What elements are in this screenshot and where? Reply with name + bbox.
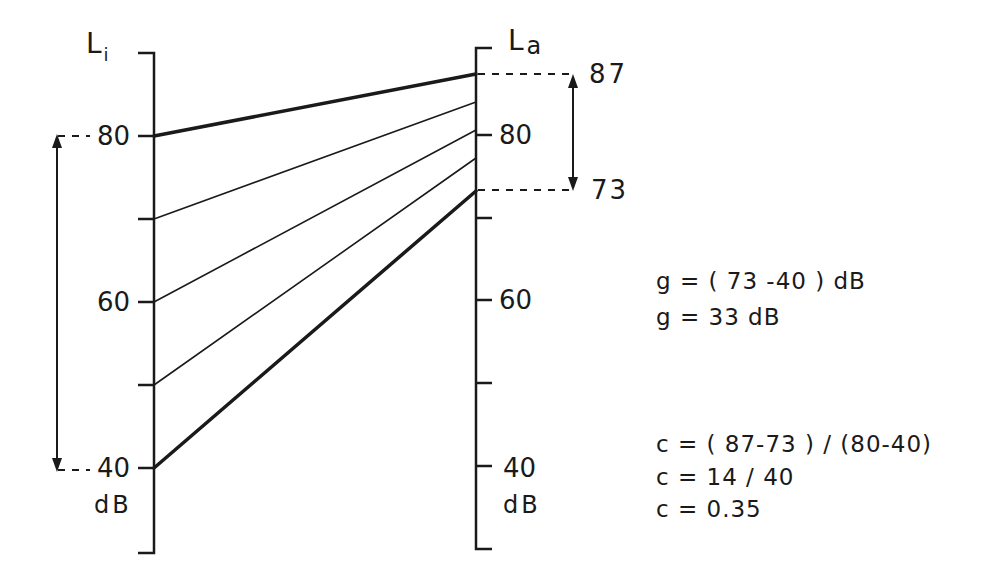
right-axis-title-main: L xyxy=(508,24,524,57)
input-range-arrow xyxy=(52,134,62,472)
right-tick-label-60: 60 xyxy=(499,287,532,313)
left-axis-title-main: L xyxy=(86,27,102,60)
left-tick-label-80: 80 xyxy=(97,123,130,149)
mapping-line-80-to-87 xyxy=(154,74,476,136)
right-tick-label-40: 40 xyxy=(503,455,536,481)
output-max-label: 87 xyxy=(589,61,628,87)
left-axis-title-subscript: i xyxy=(104,44,109,65)
arrowhead-up-icon xyxy=(568,74,578,88)
equation-g-2: g = 33 dB xyxy=(656,306,780,329)
left-axis-title: Li xyxy=(86,30,107,58)
equation-c-2: c = 14 / 40 xyxy=(656,466,794,489)
equation-c-1: c = ( 87-73 ) / (80-40) xyxy=(656,433,932,456)
mapping-line-40-to-73 xyxy=(154,191,476,468)
left-tick-label-40: 40 xyxy=(97,455,130,481)
equation-c-3: c = 0.35 xyxy=(656,498,762,521)
left-axis-unit: dB xyxy=(94,493,132,517)
right-axis xyxy=(476,48,492,549)
equation-g-1: g = ( 73 -40 ) dB xyxy=(656,270,866,293)
right-tick-label-80: 80 xyxy=(499,122,532,148)
right-axis-title-subscript: a xyxy=(527,32,542,60)
output-range-arrow xyxy=(568,74,578,191)
right-axis-unit: dB xyxy=(503,493,541,517)
arrowhead-down-icon xyxy=(568,177,578,191)
mapping-line-60-to-80 xyxy=(154,130,476,302)
mapping-lines xyxy=(154,74,476,468)
left-axis xyxy=(138,53,154,553)
mapping-line-70 xyxy=(154,102,476,219)
output-min-label: 73 xyxy=(591,177,628,203)
right-axis-title: La xyxy=(508,27,538,55)
left-tick-label-60: 60 xyxy=(97,289,130,315)
mapping-line-50 xyxy=(154,158,476,385)
